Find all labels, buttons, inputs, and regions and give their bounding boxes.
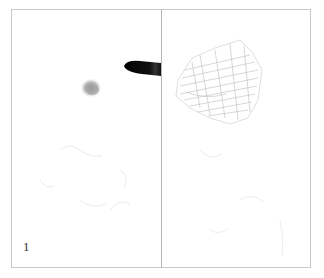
faint-traces-right (200, 150, 283, 256)
faint-traces-left (40, 146, 130, 210)
pen-tip-icon (124, 61, 161, 76)
figure-artwork (0, 0, 324, 278)
smudge-mark (80, 78, 102, 98)
hatched-sketch (176, 40, 262, 124)
panel-number-label: 1 (23, 240, 30, 254)
